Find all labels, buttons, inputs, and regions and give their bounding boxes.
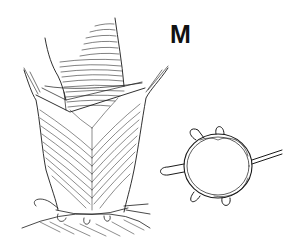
inner-tube-drawing	[45, 18, 124, 107]
surgical-illustration	[0, 0, 301, 248]
figure-panel: M	[0, 0, 301, 248]
outer-cuff-drawing	[24, 66, 168, 212]
base-suture-drawing	[22, 199, 150, 236]
suture-ring-drawing	[161, 127, 283, 206]
